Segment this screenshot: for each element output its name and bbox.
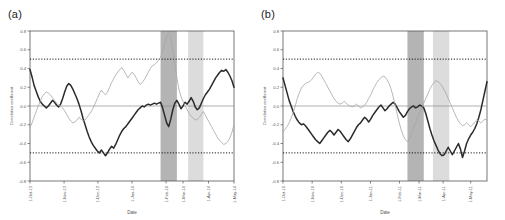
- x-tick-label: 1-Oct-13: [28, 185, 33, 201]
- y-tick-label: -0.6: [19, 160, 27, 165]
- x-axis-title: Date: [127, 210, 137, 215]
- y-axis-title: Correlation coefficient: [9, 86, 14, 126]
- x-tick-label: 1-Mar-14: [181, 185, 186, 202]
- x-tick-label: 1-Dec-10: [339, 185, 344, 202]
- y-tick-label: -0.2: [272, 122, 280, 127]
- plot-b-svg: 0.80.60.40.20.0-0.2-0.4-0.6-0.81-Oct-101…: [253, 0, 505, 220]
- y-axis-title: Correlation coefficient: [262, 86, 267, 126]
- x-tick-label: 1-Feb-14: [164, 185, 169, 202]
- x-tick-label: 1-Nov-13: [62, 185, 67, 202]
- x-tick-label: 1-Dec-13: [95, 185, 100, 202]
- y-tick-label: 0.2: [273, 85, 279, 90]
- y-tick-label: -0.4: [272, 141, 280, 146]
- y-tick-label: -0.4: [19, 141, 27, 146]
- x-tick-label: 1-Apr-14: [206, 185, 211, 201]
- y-tick-label: 0.0: [273, 104, 279, 109]
- x-tick-label: 1-Feb-11: [397, 185, 402, 202]
- data-series-series-light: [283, 72, 487, 141]
- x-tick-label: 1-Jan-14: [130, 185, 135, 202]
- y-tick-label: -0.2: [19, 122, 27, 127]
- x-tick-label: 1-May-11: [468, 185, 473, 202]
- y-tick-label: -0.8: [19, 179, 27, 184]
- chart-panel-a: (a) 0.80.60.40.20.0-0.2-0.4-0.6-0.81-Oct…: [0, 0, 252, 220]
- x-tick-label: 1-Apr-11: [441, 185, 446, 201]
- y-tick-label: -0.6: [272, 160, 280, 165]
- y-tick-label: 0.6: [20, 47, 26, 52]
- x-tick-label: 1-May-14: [232, 185, 237, 203]
- x-tick-label: 1-Oct-10: [281, 185, 286, 201]
- x-tick-label: 1-Jan-11: [368, 185, 373, 201]
- y-tick-label: 0.4: [20, 66, 26, 71]
- y-tick-label: 0.2: [20, 85, 26, 90]
- y-tick-label: 0.8: [20, 29, 26, 34]
- x-tick-label: 1-Mar-11: [417, 185, 422, 202]
- y-tick-label: 0.8: [273, 29, 279, 34]
- x-axis-title: Date: [380, 210, 390, 215]
- chart-panel-b: (b) 0.80.60.40.20.0-0.2-0.4-0.6-0.81-Oct…: [253, 0, 505, 220]
- y-tick-label: 0.6: [273, 47, 279, 52]
- x-tick-label: 1-Nov-10: [310, 185, 315, 202]
- figure-root: (a) 0.80.60.40.20.0-0.2-0.4-0.6-0.81-Oct…: [0, 0, 505, 220]
- y-tick-label: 0.0: [20, 104, 26, 109]
- y-tick-label: -0.8: [272, 179, 280, 184]
- y-tick-label: 0.4: [273, 66, 279, 71]
- plot-a-svg: 0.80.60.40.20.0-0.2-0.4-0.6-0.81-Oct-131…: [0, 0, 252, 220]
